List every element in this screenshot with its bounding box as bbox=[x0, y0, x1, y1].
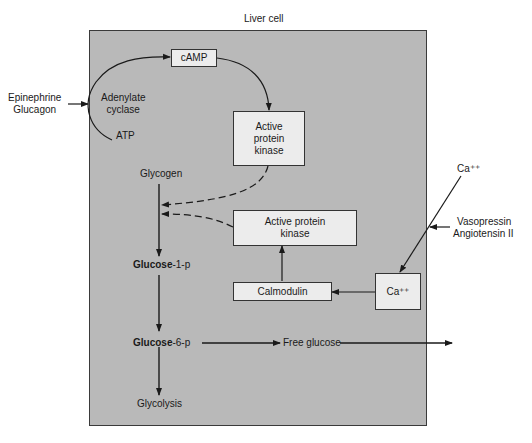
glucagon-label: Glucagon bbox=[8, 104, 61, 116]
epinephrine-label: Epinephrine bbox=[8, 92, 61, 104]
glucose-1-phosphate-label: Glucose-1-p bbox=[133, 259, 190, 271]
vasopressin-label: Vasopressin bbox=[453, 216, 514, 228]
angiotensin-label: Angiotensin II bbox=[453, 228, 514, 240]
camp-box: cAMP bbox=[171, 49, 217, 67]
calmodulin-box: Calmodulin bbox=[233, 282, 332, 301]
active-protein-kinase-box-camp: Active protein kinase bbox=[233, 111, 305, 166]
glycolysis-label: Glycolysis bbox=[137, 398, 182, 410]
hormone-label-left: Epinephrine Glucagon bbox=[8, 92, 61, 116]
free-glucose-label: Free glucose bbox=[283, 337, 341, 349]
glucose-6-phosphate-label: Glucose-6-p bbox=[133, 337, 190, 349]
hormone-label-right: Vasopressin Angiotensin II bbox=[453, 216, 514, 240]
glycogen-label: Glycogen bbox=[140, 168, 182, 180]
liver-cell-title: Liver cell bbox=[244, 13, 283, 25]
adenylate-cyclase-label: Adenylate cyclase bbox=[101, 92, 145, 116]
calcium-inside-box: Ca⁺⁺ bbox=[375, 273, 421, 310]
active-protein-kinase-box-calcium: Active protein kinase bbox=[233, 210, 357, 246]
calcium-outside-label: Ca⁺⁺ bbox=[457, 163, 480, 175]
atp-label: ATP bbox=[116, 130, 135, 142]
